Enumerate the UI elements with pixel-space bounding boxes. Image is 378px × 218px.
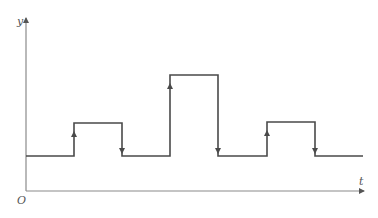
waveform-line: [26, 75, 363, 156]
falling-edge-arrow-icon: [215, 148, 221, 154]
pulse-waveform: [26, 75, 363, 156]
x-axis-label: t: [359, 175, 364, 188]
falling-edge-arrow-icon: [119, 148, 125, 154]
y-axis-label: y: [16, 15, 24, 28]
origin-label: O: [17, 194, 26, 207]
rising-edge-arrow-icon: [264, 130, 270, 136]
rising-edge-arrow-icon: [71, 131, 77, 137]
falling-edge-arrow-icon: [312, 148, 318, 154]
rising-edge-arrow-icon: [167, 83, 173, 89]
axes: [26, 18, 364, 191]
pulse-diagram: y t O: [0, 0, 378, 218]
